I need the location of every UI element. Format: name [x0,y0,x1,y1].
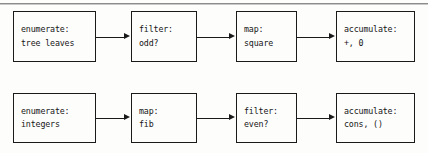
node-label-line-2: +, 0 [344,37,363,51]
node-label-line-1: accumulate: [344,105,397,119]
arrow-right-icon [297,113,337,123]
arrow-right-icon [96,32,131,42]
node-label-line-2: cons, () [344,118,383,132]
arrow-right-icon [297,32,337,42]
node-filter-even[interactable]: filter: even? [236,93,297,143]
node-map-fib[interactable]: map: fib [131,93,197,143]
arrow-right-icon [197,113,237,123]
node-accumulate-plus-zero[interactable]: accumulate: +, 0 [336,11,415,62]
node-enumerate-integers[interactable]: enumerate: integers [13,93,96,143]
node-label-line-2: square [244,37,273,51]
arrow-right-icon [197,32,237,42]
node-label-line-1: filter: [139,23,173,37]
node-label-line-1: enumerate: [21,105,69,119]
node-label-line-1: map: [139,105,158,119]
node-label-line-2: integers [21,118,60,132]
node-label-line-2: odd? [139,37,158,51]
node-label-line-2: even? [244,118,268,132]
node-label-line-2: fib [139,118,154,132]
diagram-canvas: enumerate: tree leaves filter: odd? map:… [0,0,428,153]
arrow-right-icon [96,113,131,123]
page-rule-shadow [0,4,428,5]
node-label-line-1: filter: [244,105,278,119]
node-label-line-1: map: [244,23,263,37]
node-label-line-1: accumulate: [344,23,397,37]
node-label-line-1: enumerate: [21,23,69,37]
node-label-line-2: tree leaves [21,37,74,51]
node-map-square[interactable]: map: square [236,11,297,62]
node-filter-odd[interactable]: filter: odd? [131,11,197,62]
node-accumulate-cons-nil[interactable]: accumulate: cons, () [336,93,415,143]
node-enumerate-tree-leaves[interactable]: enumerate: tree leaves [13,11,96,62]
